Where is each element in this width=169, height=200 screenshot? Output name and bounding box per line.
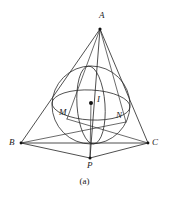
vertex-dot-i — [89, 101, 93, 105]
label-point-n: N — [116, 111, 122, 120]
vertex-dot-c — [147, 142, 150, 145]
edge-a-m — [67, 29, 100, 119]
edge-b-p — [21, 143, 90, 158]
edge-c-i-m — [67, 119, 148, 143]
vertex-dot-a — [98, 27, 101, 30]
edge-a-n — [100, 29, 126, 122]
figure-caption: (a) — [0, 177, 169, 186]
label-point-c: C — [152, 138, 158, 147]
label-point-p: P — [87, 161, 93, 170]
figure-canvas — [0, 0, 169, 200]
label-point-m: M — [59, 108, 67, 117]
label-point-i: I — [97, 95, 100, 104]
edge-c-p — [90, 143, 148, 158]
edge-a-b — [21, 29, 100, 143]
geometry-figure: A B C P I M N (a) — [0, 0, 169, 200]
label-point-a: A — [99, 11, 105, 20]
label-point-b: B — [9, 138, 15, 147]
vertex-dot-b — [20, 142, 23, 145]
